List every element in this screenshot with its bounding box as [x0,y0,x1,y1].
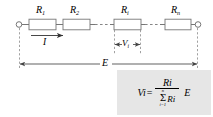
voltage-drop-label: Vi [122,39,129,49]
resistor-r1-body [29,19,56,30]
summation-operator: n Σ i=1 [159,89,166,107]
resistor-label-r1: R1 [36,5,45,16]
formula-numerator: Ri [160,77,175,88]
resistor-label-r2-sub: 2 [76,9,79,16]
formula-equation: Vi = Ri n Σ i=1 Ri E [117,70,211,115]
summation-lower-limit: i=1 [159,103,166,108]
formula-denominator: n Σ i=1 Ri [157,89,177,107]
current-label: I [43,38,46,48]
resistor-ri-body [114,19,141,30]
left-terminal-icon [16,22,22,28]
resistor-label-ri-sub: i [127,9,129,16]
formula-denominator-term: Ri [167,94,175,104]
formula-denominator-sub: i [173,94,176,104]
formula-numerator-sub: i [169,77,172,88]
formula-row: Vi = Ri n Σ i=1 Ri E [138,77,191,107]
resistor-r2-body [63,19,90,30]
source-voltage-label: E [102,58,108,68]
source-voltage-label-base: E [102,57,108,68]
circuit-figure: R1 R2 Ri Rn I Vi E Vi = Ri [0,0,213,117]
resistor-label-rn: Rn [171,5,180,16]
resistor-label-rn-sub: n [177,9,180,16]
formula-equals: = [147,87,153,98]
formula-multiplier: E [184,87,190,98]
formula-lhs-sub: i [143,87,146,98]
voltage-drop-label-sub: i [128,43,130,49]
formula-box: Vi = Ri n Σ i=1 Ri E [117,70,211,115]
current-label-base: I [43,37,46,47]
formula-fraction: Ri n Σ i=1 Ri [155,77,179,107]
resistor-rn-body [165,19,191,30]
resistor-label-r1-sub: 1 [42,9,45,16]
right-terminal-icon [195,22,201,28]
resistor-label-r2: R2 [70,5,79,16]
formula-lhs: Vi [138,87,146,98]
e-extension-lines [20,28,198,68]
resistor-label-ri: Ri [121,5,129,16]
